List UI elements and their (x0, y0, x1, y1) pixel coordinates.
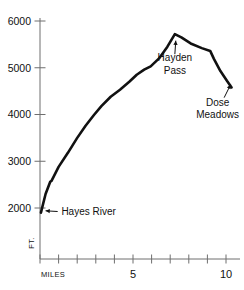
y-tick-label-5000: 5000 (8, 62, 32, 74)
annotation-label-hayden-pass-line1: Hayden (158, 52, 192, 63)
annotation-arrowhead-hayden-pass (173, 41, 177, 45)
chart-canvas: 20003000400050006000 510 FT. MILES Hayes… (0, 0, 244, 290)
annotation-hayes-river: Hayes River (46, 206, 117, 217)
axes-group (40, 18, 240, 259)
y-tick-label-6000: 6000 (8, 15, 32, 27)
annotation-dose-meadows: DoseMeadows (196, 85, 239, 121)
y-tick-label-4000: 4000 (8, 108, 32, 120)
annotation-arrowhead-hayes-river (46, 209, 50, 213)
x-tick-label-10: 10 (220, 268, 232, 280)
elevation-profile-chart: 20003000400050006000 510 FT. MILES Hayes… (0, 0, 244, 290)
annotation-hayden-pass: HaydenPass (158, 41, 192, 76)
annotation-label-dose-meadows-line2: Meadows (196, 109, 239, 120)
y-axis-tick-labels: 20003000400050006000 (8, 15, 32, 214)
series-line-0 (41, 34, 232, 213)
x-axis-title: MILES (41, 270, 65, 279)
y-tick-label-2000: 2000 (8, 202, 32, 214)
x-tick-label-5: 5 (130, 268, 136, 280)
y-tick-label-3000: 3000 (8, 155, 32, 167)
annotation-label-hayden-pass-line2: Pass (164, 65, 186, 76)
annotation-label-dose-meadows-line1: Dose (206, 97, 230, 108)
y-axis-title: FT. (27, 237, 36, 248)
annotations-group: Hayes RiverHaydenPassDoseMeadows (46, 41, 239, 217)
annotation-label-hayes-river: Hayes River (61, 206, 116, 217)
data-series-group (41, 34, 232, 213)
x-axis-tick-labels: 510 (130, 268, 232, 280)
